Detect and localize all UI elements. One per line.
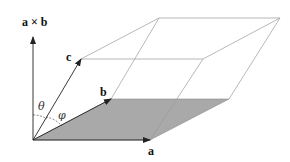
label-c: c [66,51,71,63]
label-a: a [148,145,154,157]
label-b: b [100,86,107,98]
label-theta: θ [38,101,45,112]
label-a-cross-b: a × b [22,16,48,28]
label-phi: φ [58,110,66,121]
theta-arc [33,115,47,119]
